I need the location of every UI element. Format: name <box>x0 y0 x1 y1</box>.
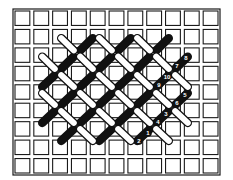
canvas-square <box>166 11 181 25</box>
canvas-square <box>71 140 86 154</box>
canvas-square <box>109 140 124 154</box>
canvas-square <box>203 66 218 80</box>
stitch-diagram: 12345678910 <box>0 0 233 180</box>
canvas-square <box>15 11 30 25</box>
canvas-square <box>203 159 218 173</box>
canvas-square <box>15 103 30 117</box>
step-number: 10 <box>164 74 171 80</box>
canvas-square <box>203 11 218 25</box>
canvas-square <box>53 11 68 25</box>
canvas-square <box>109 11 124 25</box>
canvas-square <box>15 159 30 173</box>
step-label: 10 <box>163 73 171 81</box>
step-label: 4 <box>154 118 162 126</box>
canvas-square <box>71 159 86 173</box>
step-label: 8 <box>182 54 190 62</box>
canvas-square <box>53 159 68 173</box>
canvas-square <box>203 85 218 99</box>
canvas-square <box>203 122 218 136</box>
diagram-svg: 12345678910 <box>0 0 233 180</box>
canvas-square <box>184 29 199 43</box>
canvas-square <box>184 140 199 154</box>
canvas-square <box>184 103 199 117</box>
step-label: 9 <box>155 81 163 89</box>
canvas-square <box>203 140 218 154</box>
canvas-square <box>184 66 199 80</box>
canvas-square <box>147 159 162 173</box>
canvas-square <box>15 29 30 43</box>
canvas-square <box>147 140 162 154</box>
canvas-square <box>15 140 30 154</box>
canvas-square <box>34 11 49 25</box>
canvas-square <box>128 159 143 173</box>
canvas-square <box>184 11 199 25</box>
canvas-square <box>90 11 105 25</box>
canvas-square <box>15 85 30 99</box>
canvas-square <box>203 48 218 62</box>
step-label: 7 <box>173 62 181 70</box>
step-label: 6 <box>173 99 181 107</box>
canvas-square <box>34 159 49 173</box>
step-label: 3 <box>162 110 170 118</box>
canvas-square <box>147 11 162 25</box>
canvas-square <box>15 122 30 136</box>
step-label: 1 <box>144 129 152 137</box>
canvas-square <box>184 159 199 173</box>
step-label: 5 <box>181 91 189 99</box>
canvas-square <box>34 29 49 43</box>
canvas-square <box>166 122 181 136</box>
canvas-square <box>203 29 218 43</box>
step-label: 2 <box>135 137 143 145</box>
canvas-square <box>203 103 218 117</box>
canvas-square <box>15 66 30 80</box>
canvas-square <box>71 11 86 25</box>
canvas-square <box>34 140 49 154</box>
canvas-square <box>109 159 124 173</box>
canvas-square <box>166 159 181 173</box>
canvas-square <box>128 11 143 25</box>
canvas-square <box>90 159 105 173</box>
canvas-square <box>15 48 30 62</box>
